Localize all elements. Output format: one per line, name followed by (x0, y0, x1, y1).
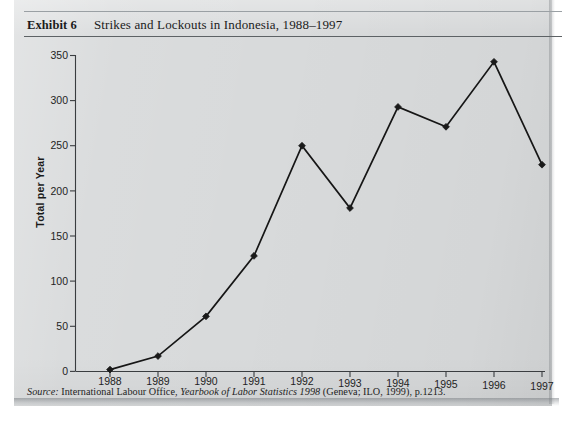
line-chart-plot (0, 0, 588, 406)
data-series-line (110, 62, 542, 370)
source-prefix: Source: (27, 386, 59, 397)
data-point-1997 (539, 161, 546, 168)
data-point-markers (107, 58, 546, 373)
chart-figure: Total per Year 350 300 250 200 150 100 5… (0, 0, 588, 406)
source-work-title: Yearbook of Labor Statistics 1998 (180, 386, 320, 397)
source-imprint: (Geneva; ILO, 1999), p.1213. (323, 386, 446, 397)
source-publisher: International Labour Office, (61, 386, 177, 397)
page-root: Exhibit 6Strikes and Lockouts in Indones… (0, 0, 588, 429)
x-axis-ticks (110, 372, 542, 378)
source-note: Source: International Labour Office, Yea… (27, 386, 547, 397)
data-point-1994 (395, 104, 402, 111)
y-axis-ticks (70, 56, 76, 372)
